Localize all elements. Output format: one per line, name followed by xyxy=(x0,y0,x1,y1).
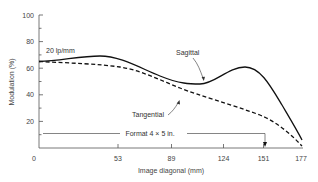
x-tick-124: 124 xyxy=(218,155,230,162)
tangential-label: Tangential xyxy=(132,111,164,119)
x-tick-177: 177 xyxy=(295,155,307,162)
y-tick-100: 100 xyxy=(22,12,34,19)
x-tick-0: 0 xyxy=(32,155,36,162)
x-tick-151: 151 xyxy=(258,155,270,162)
y-tick-20: 20 xyxy=(26,118,34,125)
sagittal-label: Sagittal xyxy=(176,49,200,57)
mtf-chart: 100 80 60 40 20 0 53 89 124 151 177 Imag… xyxy=(0,0,318,182)
x-tick-labels: 0 53 89 124 151 177 xyxy=(32,155,307,162)
sagittal-curve xyxy=(39,56,302,140)
tangential-leader xyxy=(168,103,178,115)
sagittal-arrowhead xyxy=(202,77,205,81)
format-label: Format 4 × 5 in. xyxy=(125,130,174,137)
tangential-arrowhead xyxy=(177,100,180,105)
y-ticks xyxy=(39,15,43,135)
x-ticks xyxy=(118,144,264,148)
y-tick-60: 60 xyxy=(26,65,34,72)
x-tick-53: 53 xyxy=(114,155,122,162)
y-tick-80: 80 xyxy=(26,38,34,45)
x-axis-title: Image diagonal (mm) xyxy=(138,167,204,175)
y-tick-40: 40 xyxy=(26,91,34,98)
x-tick-89: 89 xyxy=(168,155,176,162)
sagittal-leader xyxy=(193,58,203,78)
y-axis-title: Modulation (%) xyxy=(8,58,16,105)
frequency-label: 20 lp/mm xyxy=(46,47,75,55)
y-tick-labels: 100 80 60 40 20 xyxy=(22,12,34,125)
